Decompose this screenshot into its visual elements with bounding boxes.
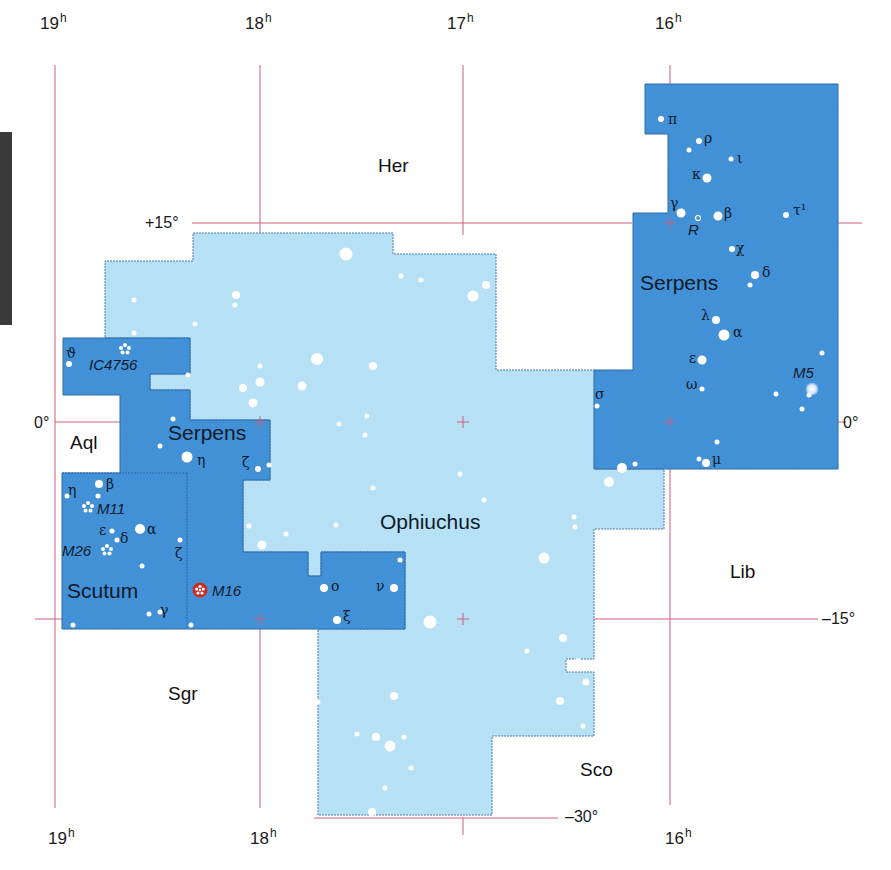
ra-label-18h-top: 18h — [245, 12, 272, 32]
object-label-m16: M16 — [212, 583, 241, 598]
star-label-delta-sct: δ — [120, 531, 128, 545]
constellation-label-ophiuchus: Ophiuchus — [380, 511, 480, 532]
star-label-eta-ser: η — [197, 453, 205, 467]
star-label-pi-ser: π — [668, 112, 677, 126]
object-label-m11: M11 — [97, 501, 125, 516]
constellation-label-serpens-cauda: Serpens — [168, 422, 246, 443]
star-label-chi-ser: χ — [736, 241, 744, 255]
constellation-label-sco: Sco — [580, 760, 613, 779]
star-label-tau1-ser: τ¹ — [793, 203, 806, 217]
star-label-kappa-ser: κ — [692, 167, 701, 181]
object-label-ic4756: IC4756 — [89, 357, 137, 372]
star-chart — [0, 0, 891, 870]
star-label-sigma-ser: σ — [595, 387, 605, 401]
star-label-mu-ser: μ — [712, 452, 721, 466]
ra-label-19h-top: 19h — [40, 12, 67, 32]
ra-label-18h-bottom: 18h — [250, 827, 277, 847]
m16-nebula-icon — [193, 583, 208, 598]
star-label-zeta-sct: ζ — [175, 546, 183, 560]
star-label-epsilon-ser: ε — [689, 351, 696, 365]
page-edge-bar — [0, 132, 12, 325]
ra-label-16h-bottom: 16h — [665, 827, 692, 847]
constellation-label-her: Her — [378, 156, 409, 175]
m5-globular-icon — [805, 382, 819, 396]
star-label-alpha-ser: α — [733, 325, 742, 339]
object-label-r-ser: R — [688, 222, 699, 237]
star-label-lambda-ser: λ — [701, 308, 710, 322]
star-label-beta-ser: β — [724, 206, 732, 220]
ra-label-17h-top: 17h — [447, 12, 474, 32]
star-label-beta-sct: β — [106, 477, 114, 491]
dec-label-0-left: 0° — [34, 415, 49, 431]
constellation-label-serpens-caput: Serpens — [640, 272, 718, 293]
constellation-label-lib: Lib — [730, 562, 755, 581]
star-label-eta-sct: η — [68, 483, 76, 497]
star-label-nu-ser: ν — [376, 579, 385, 593]
constellation-label-sgr: Sgr — [168, 684, 198, 703]
object-label-m5: M5 — [793, 365, 814, 380]
star-label-omicron-ser: ο — [331, 579, 339, 593]
constellation-label-aql: Aql — [70, 433, 97, 452]
star-label-iota-ser: ι — [737, 151, 743, 165]
star-label-epsilon-sct: ε — [99, 523, 106, 537]
star-label-delta-ser: δ — [762, 265, 770, 279]
star-label-omega-ser: ω — [686, 377, 697, 391]
dec-label-minus30: –30° — [565, 809, 598, 825]
ra-label-19h-bottom: 19h — [48, 827, 75, 847]
dec-label-0-right: 0° — [843, 415, 858, 431]
star-label-xi-ser: ξ — [343, 609, 351, 623]
object-label-m26: M26 — [62, 543, 91, 558]
star-label-theta-ser: ϑ — [66, 346, 76, 360]
ra-label-16h-top: 16h — [655, 12, 682, 32]
constellation-label-scutum: Scutum — [67, 580, 138, 601]
star-label-zeta-ser: ζ — [242, 455, 250, 469]
star-label-rho-ser: ρ — [704, 131, 712, 145]
dec-label-plus15: +15° — [145, 215, 179, 231]
star-label-alpha-sct: α — [147, 522, 156, 536]
dec-label-minus15: –15° — [822, 611, 855, 627]
star-label-gamma-ser: γ — [670, 196, 678, 210]
star-label-gamma-sct: γ — [160, 603, 168, 617]
